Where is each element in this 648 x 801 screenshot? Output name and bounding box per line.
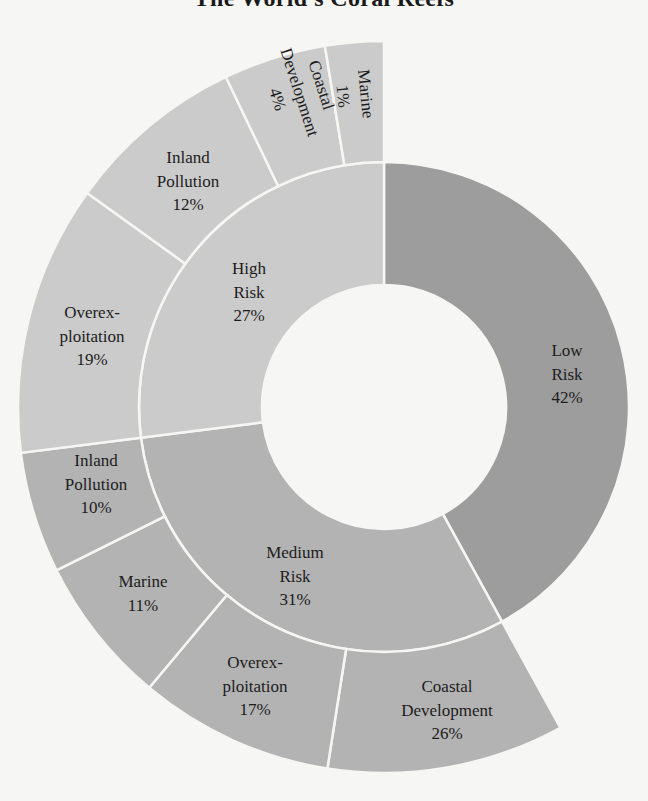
label-low-risk: LowRisk42%	[551, 341, 583, 407]
sunburst-chart: LowRisk42%MediumRisk31%HighRisk27%Coasta…	[0, 0, 648, 801]
label-high-risk: HighRisk27%	[232, 259, 267, 325]
chart-segments	[18, 41, 629, 773]
